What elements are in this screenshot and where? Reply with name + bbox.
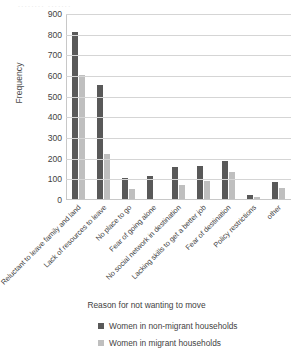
y-axis-tick-label: 900 — [36, 9, 62, 19]
y-axis-tick-label: 400 — [36, 112, 62, 122]
bar-group — [141, 14, 166, 199]
x-axis-title: Reason for not wanting to move — [0, 300, 293, 310]
legend-swatch-icon — [98, 323, 104, 329]
legend-item[interactable]: Women in non-migrant households — [0, 317, 293, 334]
y-axis-tick-label: 500 — [36, 92, 62, 102]
bar-group — [241, 14, 266, 199]
legend-item[interactable]: Women in migrant households — [0, 334, 293, 351]
legend-label: Women in migrant households — [109, 338, 221, 348]
bar — [229, 172, 235, 199]
bars-layer — [66, 14, 291, 199]
bar — [97, 85, 103, 199]
y-axis-tick-label: 100 — [36, 174, 62, 184]
bar — [254, 197, 260, 199]
gridline — [66, 117, 291, 118]
bar — [272, 182, 278, 199]
chart-legend: Women in non-migrant householdsWomen in … — [0, 317, 293, 351]
y-axis-tick-label: 200 — [36, 154, 62, 164]
bar-chart-figure: ........ ....... Frequency 9008007006005… — [0, 0, 293, 358]
x-axis-tick-label: other — [265, 203, 283, 221]
gridline — [66, 55, 291, 56]
y-axis-tick-label: 600 — [36, 71, 62, 81]
bar-group — [191, 14, 216, 199]
bar — [247, 195, 253, 199]
bar — [79, 75, 85, 199]
gridline — [66, 179, 291, 180]
bar-group — [116, 14, 141, 199]
bar — [172, 167, 178, 199]
gridline — [66, 14, 291, 15]
bar — [179, 185, 185, 199]
gridline — [66, 159, 291, 160]
bar — [129, 189, 135, 199]
x-axis-category-labels: Reluctant to leave family and landLack o… — [66, 201, 291, 293]
plot-area: Frequency 9008007006005004003002001000 R… — [0, 0, 293, 215]
y-axis-tick-labels: 9008007006005004003002001000 — [36, 14, 62, 200]
bar-group — [91, 14, 116, 199]
bar — [72, 32, 78, 199]
bar-group — [216, 14, 241, 199]
y-axis-tick-label: 700 — [36, 50, 62, 60]
bar-group — [166, 14, 191, 199]
y-axis-tick-label: 800 — [36, 30, 62, 40]
legend-label: Women in non-migrant households — [109, 321, 238, 331]
y-axis-tick-label: 300 — [36, 133, 62, 143]
gridline — [66, 35, 291, 36]
bar — [197, 166, 203, 199]
gridline — [66, 97, 291, 98]
bar-group — [266, 14, 291, 199]
gridline — [66, 76, 291, 77]
y-axis-tick-label: 0 — [36, 195, 62, 205]
gridline — [66, 138, 291, 139]
x-axis-line — [66, 199, 291, 200]
bar — [279, 188, 285, 199]
grid-area — [66, 14, 291, 200]
bar — [204, 181, 210, 199]
legend-swatch-icon — [98, 340, 104, 346]
bar-group — [66, 14, 91, 199]
y-axis-title: Frequency — [14, 38, 24, 128]
bar — [122, 178, 128, 199]
bar — [104, 154, 110, 199]
